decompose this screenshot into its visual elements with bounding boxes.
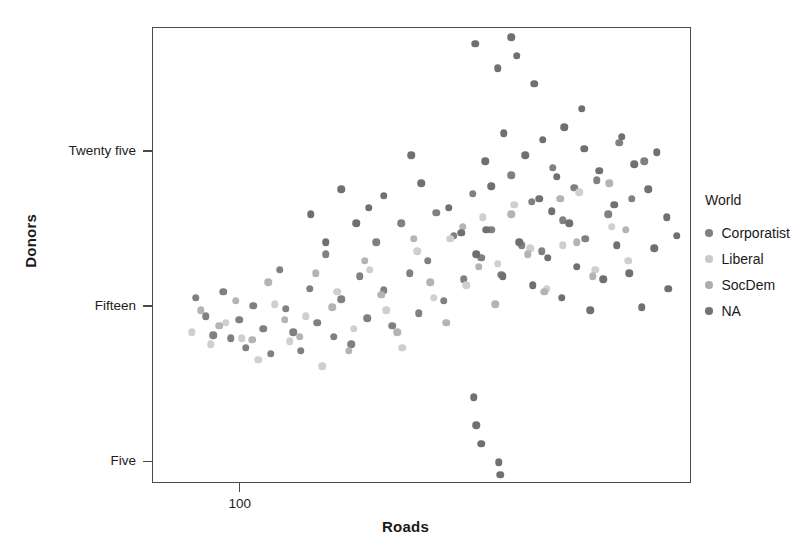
data-point [604, 210, 612, 218]
data-point [236, 316, 244, 324]
data-point [380, 192, 388, 200]
data-point [513, 52, 521, 60]
data-point [433, 209, 441, 217]
data-point [553, 173, 561, 181]
data-point [267, 350, 275, 358]
data-point [250, 302, 258, 310]
data-point [227, 334, 235, 342]
legend: World CorporatistLiberalSocDemNA [705, 192, 790, 324]
data-point [238, 334, 246, 342]
legend-entries: CorporatistLiberalSocDemNA [705, 220, 790, 324]
data-point [673, 232, 681, 240]
y-tick-label: Fifteen [0, 298, 136, 313]
data-point [558, 294, 566, 302]
data-point [528, 198, 536, 206]
data-point [481, 158, 489, 166]
data-point [508, 34, 516, 42]
data-point [491, 300, 499, 308]
data-point [281, 316, 289, 324]
data-point [495, 459, 503, 467]
data-point [313, 319, 321, 327]
data-point [628, 195, 636, 203]
data-point [530, 80, 538, 88]
data-point [377, 291, 385, 299]
data-point [565, 220, 573, 228]
data-point [188, 328, 196, 336]
data-point [443, 319, 451, 327]
legend-item-na[interactable]: NA [705, 298, 790, 324]
data-point [356, 272, 364, 280]
data-point [548, 207, 556, 215]
data-point [296, 333, 304, 341]
legend-item-label: SocDem [722, 277, 776, 293]
data-point [322, 238, 330, 246]
data-point [219, 288, 227, 296]
data-point [540, 288, 548, 296]
data-point [364, 314, 372, 322]
data-point [529, 282, 537, 290]
data-point [582, 235, 590, 243]
data-point [297, 347, 305, 355]
legend-item-socdem[interactable]: SocDem [705, 272, 790, 298]
data-point [458, 229, 466, 237]
scatter-plot-figure: Donors Roads FiveFifteenTwenty five100 W… [0, 0, 811, 559]
data-point [580, 145, 588, 153]
data-points-layer [153, 28, 690, 482]
data-point [589, 272, 597, 280]
data-point [426, 279, 434, 287]
legend-item-liberal[interactable]: Liberal [705, 246, 790, 272]
data-point [473, 421, 481, 429]
data-point [399, 344, 407, 352]
legend-title: World [705, 192, 790, 208]
data-point [549, 164, 557, 172]
data-point [578, 105, 586, 113]
data-point [664, 285, 672, 293]
data-point [282, 305, 290, 313]
data-point [587, 307, 595, 315]
y-tick-mark [143, 150, 152, 151]
legend-item-label: Liberal [722, 251, 764, 267]
data-point [606, 179, 614, 187]
data-point [618, 133, 626, 141]
data-point [559, 241, 567, 249]
y-axis-title: Donors [22, 214, 39, 268]
legend-swatch-icon [705, 281, 713, 289]
legend-swatch-icon [705, 229, 713, 237]
data-point [470, 393, 478, 401]
data-point [522, 151, 530, 159]
data-point [613, 241, 621, 249]
data-point [445, 204, 453, 212]
y-tick-label: Twenty five [0, 143, 136, 158]
data-point [334, 288, 342, 296]
legend-item-corporatist[interactable]: Corporatist [705, 220, 790, 246]
data-point [424, 257, 432, 265]
data-point [330, 333, 338, 341]
data-point [651, 244, 659, 252]
data-point [307, 210, 315, 218]
x-tick-mark [239, 483, 240, 492]
legend-item-label: NA [722, 303, 741, 319]
data-point [312, 269, 320, 277]
data-point [318, 362, 326, 370]
data-point [463, 282, 471, 290]
data-point [483, 226, 491, 234]
data-point [216, 322, 224, 330]
data-point [345, 347, 353, 355]
data-point [471, 40, 479, 48]
data-point [361, 257, 369, 265]
data-point [365, 204, 373, 212]
data-point [544, 254, 552, 262]
data-point [663, 213, 671, 221]
data-point [382, 307, 390, 315]
data-point [306, 285, 314, 293]
data-point [337, 186, 345, 194]
data-point [494, 65, 502, 73]
data-point [350, 325, 358, 333]
x-tick-label: 100 [180, 496, 300, 511]
data-point [624, 257, 632, 265]
data-point [328, 303, 336, 311]
data-point [417, 179, 425, 187]
data-point [499, 272, 507, 280]
data-point [286, 338, 294, 346]
data-point [366, 266, 374, 274]
